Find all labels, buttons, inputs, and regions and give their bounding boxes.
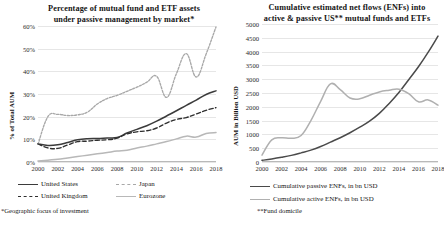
x-axis-tick-label: 2002 [51, 165, 64, 172]
y-axis-tick-label: 50% [23, 45, 35, 52]
y-axis-tick-label: 5000 [246, 21, 259, 28]
x-axis-tick-label: 2010 [130, 165, 143, 172]
x-axis-tick-label: 2018 [210, 165, 223, 172]
legend-swatch-dashed-line-icon [18, 196, 38, 197]
x-axis-tick-label: 2008 [334, 165, 347, 172]
x-axis-tick-label: 2006 [91, 165, 104, 172]
legend-item[interactable]: United States [18, 181, 116, 188]
legend-label: United States [41, 181, 78, 188]
plot-area-right: 0500100015002000250030003500400045005000… [262, 24, 438, 162]
x-axis-tick-label: 2004 [71, 165, 84, 172]
dual-chart-figure: Percentage of mutual fund and ETF assets… [0, 0, 444, 229]
series-line [38, 27, 216, 144]
legend-label: Cumulative active ENFs, in bn USD [273, 196, 374, 203]
x-axis-tick-label: 2014 [170, 165, 183, 172]
legend-label: Cumulative passive ENFs, in bn USD [273, 183, 378, 190]
x-axis-tick-label: 2016 [190, 165, 203, 172]
legend-swatch-solid-line-icon [250, 199, 270, 200]
series-lines-left [38, 26, 216, 162]
y-axis-tick-label: 2500 [246, 90, 259, 97]
gridline [262, 162, 438, 163]
legend-swatch-dotted-line-icon [116, 184, 136, 185]
x-axis-tick-label: 2012 [373, 165, 386, 172]
y-axis-tick-label: 30% [23, 91, 35, 98]
plot-area-left: 0%10%20%30%40%50%60% 2000200220042006200… [38, 26, 216, 162]
legend-item[interactable]: Cumulative passive ENFs, in bn USD [250, 183, 440, 190]
x-axis-tick-label: 2014 [392, 165, 405, 172]
chart-title-left-line1: Percentage of mutual fund and ETF assets [26, 4, 222, 15]
y-axis-tick-label: 1500 [246, 117, 259, 124]
y-axis-tick-label: 1000 [246, 131, 259, 138]
y-axis-tick-label: 10% [23, 136, 35, 143]
legend-left: United StatesJapanUnited KingdomEurozone [18, 181, 214, 200]
legend-label: Japan [139, 181, 155, 188]
x-axis-tick-label: 2006 [314, 165, 327, 172]
legend-item[interactable]: Cumulative active ENFs, in bn USD [250, 196, 440, 203]
footnote-right: **Fund domicile [257, 207, 302, 214]
x-axis-tick-label: 2004 [295, 165, 308, 172]
legend-swatch-solid-line-icon [18, 184, 38, 185]
x-axis-tick-label: 2012 [150, 165, 163, 172]
y-axis-tick-label: 3500 [246, 62, 259, 69]
gridline [38, 162, 216, 163]
chart-title-right-line2: active & passive US** mutual funds and E… [250, 14, 444, 25]
x-axis-tick-label: 2018 [432, 165, 444, 172]
chart-title-left-line2: under passive management by market* [26, 15, 222, 26]
y-axis-tick-label: 4000 [246, 48, 259, 55]
series-lines-right [262, 24, 438, 162]
x-axis-tick-label: 2010 [353, 165, 366, 172]
legend-swatch-solid-line-icon [250, 186, 270, 187]
y-axis-tick-label: 3000 [246, 76, 259, 83]
x-axis-tick-label: 2002 [275, 165, 288, 172]
series-line [262, 83, 438, 155]
x-axis-tick-label: 2016 [412, 165, 425, 172]
chart-panel-passive-share: Percentage of mutual fund and ETF assets… [0, 0, 222, 229]
y-axis-tick-label: 20% [23, 113, 35, 120]
legend-label: Eurozone [139, 193, 165, 200]
x-axis-tick-label: 2000 [32, 165, 45, 172]
legend-item[interactable]: Eurozone [116, 193, 214, 200]
chart-title-right-line1: Cumulative estimated net flows (ENFs) in… [250, 3, 444, 14]
legend-item[interactable]: Japan [116, 181, 214, 188]
y-axis-tick-label: 2000 [246, 103, 259, 110]
y-axis-tick-label: 500 [249, 145, 259, 152]
series-line [38, 91, 216, 146]
y-axis-tick-label: 60% [23, 23, 35, 30]
legend-swatch-solid-line-icon [116, 196, 136, 197]
legend-right: Cumulative passive ENFs, in bn USDCumula… [250, 183, 440, 203]
footnote-left: *Geographic focus of investment [1, 207, 89, 214]
y-axis-label-right: AUM in Billion USD [232, 86, 239, 146]
y-axis-label-left: % of Total AUM [8, 92, 15, 140]
legend-item[interactable]: United Kingdom [18, 193, 116, 200]
y-axis-tick-label: 40% [23, 68, 35, 75]
x-axis-tick-label: 2000 [256, 165, 269, 172]
legend-label: United Kingdom [41, 193, 88, 200]
chart-panel-cumulative-enfs: Cumulative estimated net flows (ENFs) in… [222, 0, 444, 229]
y-axis-tick-label: 4500 [246, 34, 259, 41]
x-axis-tick-label: 2008 [111, 165, 124, 172]
